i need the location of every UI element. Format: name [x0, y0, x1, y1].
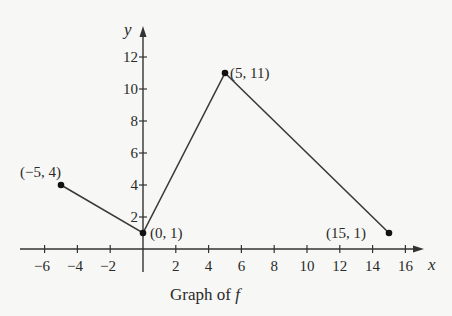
y-tick-label: 2 — [131, 209, 139, 225]
point-marker — [58, 182, 65, 189]
point-marker — [222, 70, 229, 77]
y-tick-label: 12 — [123, 49, 138, 65]
y-tick-label: 10 — [123, 81, 138, 97]
x-tick-label: −4 — [67, 258, 83, 274]
y-tick-label: 8 — [131, 113, 139, 129]
y-tick-labels: 2 4 6 8 10 12 — [123, 49, 139, 225]
y-axis-label: y — [122, 20, 132, 39]
x-tick-label: 14 — [365, 258, 381, 274]
caption-function-name: f — [235, 285, 242, 304]
x-tick-label: 16 — [398, 258, 414, 274]
caption-text: Graph of — [170, 285, 235, 304]
x-tick-label: 10 — [300, 258, 315, 274]
x-axis-label: x — [427, 255, 436, 274]
x-tick-label: 8 — [270, 258, 278, 274]
x-tick-label: 12 — [332, 258, 347, 274]
x-tick-label: −2 — [100, 258, 116, 274]
y-tick-label: 4 — [131, 177, 139, 193]
point-label: (−5, 4) — [20, 164, 61, 181]
y-axis-arrow-icon — [140, 26, 147, 37]
x-tick-label: 2 — [172, 258, 180, 274]
graph-of-f: −6 −4 −2 2 4 6 8 10 12 14 16 x 2 4 6 8 1… — [0, 0, 452, 316]
point-marker — [386, 230, 393, 237]
point-label: (15, 1) — [326, 225, 366, 242]
x-tick-label: 4 — [205, 258, 213, 274]
point-marker — [140, 230, 147, 237]
point-label: (5, 11) — [230, 65, 269, 82]
x-tick-label: 6 — [238, 258, 246, 274]
function-f-line — [61, 73, 389, 233]
chart-caption: Graph of f — [170, 285, 242, 304]
y-tick-label: 6 — [131, 145, 139, 161]
x-axis-arrow-icon — [413, 246, 424, 253]
point-label: (0, 1) — [150, 225, 183, 242]
x-tick-label: −6 — [34, 258, 50, 274]
x-tick-labels: −6 −4 −2 2 4 6 8 10 12 14 16 — [34, 258, 413, 274]
